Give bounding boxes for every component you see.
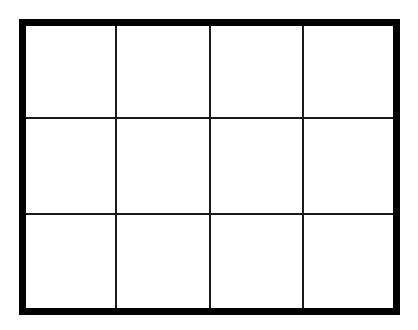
row-divider-2 [26,213,393,215]
column-divider-1 [115,26,117,308]
column-divider-3 [302,26,304,308]
grid-frame [19,19,400,315]
row-divider-1 [26,117,393,119]
column-divider-2 [209,26,211,308]
